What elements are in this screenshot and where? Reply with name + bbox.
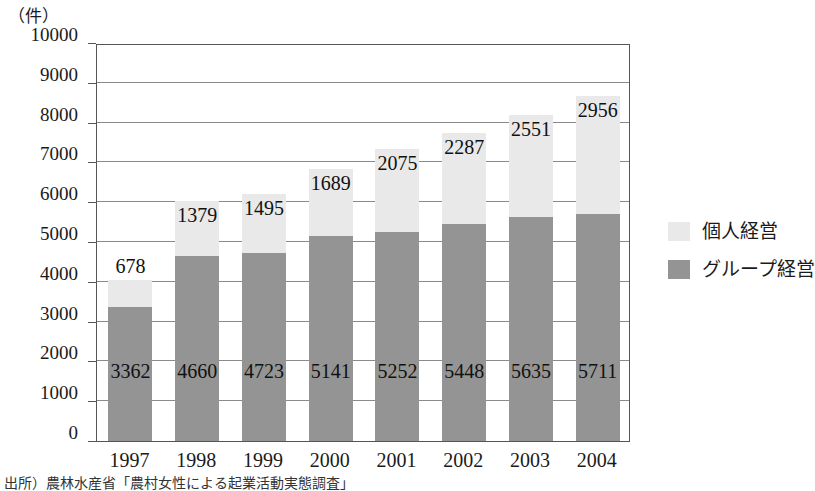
- y-tick-mark: [88, 162, 96, 163]
- x-tick-label: 2000: [296, 450, 363, 470]
- y-tick-mark: [88, 202, 96, 203]
- bar-value-label: 5711: [578, 361, 617, 381]
- y-tick-mark: [88, 242, 96, 243]
- y-tick-mark: [88, 441, 96, 442]
- bar-value-label: 4723: [244, 361, 284, 381]
- bar-value-label: 2287: [444, 137, 484, 157]
- bar-segment-kojin-keiei: 2287: [442, 133, 486, 224]
- bar-segment-group-keiei: 3362: [108, 307, 152, 441]
- legend-label: グループ経営: [702, 260, 815, 279]
- y-tick-mark: [88, 322, 96, 323]
- y-tick-label: 2000: [0, 343, 88, 362]
- dark-gray-swatch: [668, 260, 690, 279]
- bar-group: 3362678: [108, 280, 152, 441]
- y-tick-mark: [88, 282, 96, 283]
- bar-value-label: 2956: [578, 100, 618, 120]
- bar-segment-group-keiei: 5448: [442, 224, 486, 441]
- bar-value-label: 5252: [377, 361, 417, 381]
- bar-segment-kojin-keiei: 2075: [375, 149, 419, 232]
- y-tick-label: 1000: [0, 383, 88, 402]
- y-tick-label: 6000: [0, 184, 88, 203]
- bar-value-label: 1495: [244, 198, 284, 218]
- y-tick-label: 5000: [0, 224, 88, 243]
- y-tick-label: 10000: [0, 25, 88, 44]
- bar-segment-group-keiei: 5711: [576, 214, 620, 441]
- bar-value-label: 1689: [311, 173, 351, 193]
- bar-value-label: 3362: [110, 361, 150, 381]
- y-tick-label: 7000: [0, 144, 88, 163]
- bar-group: 51411689: [309, 169, 353, 441]
- y-tick-label: 0: [0, 423, 88, 442]
- chart-plot-area: 3362678466013794723149551411689525220755…: [96, 44, 630, 442]
- bars-layer: 3362678466013794723149551411689525220755…: [97, 45, 629, 441]
- bar-segment-group-keiei: 5141: [309, 236, 353, 441]
- x-tick-label: 2002: [430, 450, 497, 470]
- x-tick-label: 1999: [230, 450, 297, 470]
- y-tick-label: 3000: [0, 304, 88, 323]
- bar-segment-kojin-keiei: 1495: [242, 194, 286, 254]
- bar-segment-kojin-keiei: 2551: [509, 115, 553, 217]
- y-tick-mark: [88, 83, 96, 84]
- legend-item: 個人経営: [668, 216, 814, 246]
- y-tick-mark: [88, 401, 96, 402]
- bar-value-label: 4660: [177, 361, 217, 381]
- source-note: 出所）農林水産省「農村女性による起業活動実態調査」: [4, 477, 354, 491]
- bar-segment-kojin-keiei: 1379: [175, 201, 219, 256]
- bar-value-label: 678: [115, 256, 145, 276]
- y-tick-mark: [88, 43, 96, 44]
- bar-segment-kojin-keiei: 1689: [309, 169, 353, 236]
- x-tick-label: 1997: [96, 450, 163, 470]
- bar-segment-group-keiei: 5635: [509, 217, 553, 441]
- legend-label: 個人経営: [702, 222, 778, 241]
- y-tick-mark: [88, 361, 96, 362]
- x-tick-label: 2003: [497, 450, 564, 470]
- x-axis: 19971998199920002001200220032004: [96, 446, 630, 474]
- bar-group: 47231495: [242, 194, 286, 441]
- bar-value-label: 1379: [177, 205, 217, 225]
- bar-value-label: 2075: [377, 153, 417, 173]
- bar-segment-kojin-keiei: 2956: [576, 96, 620, 214]
- y-axis: 1000090008000700060005000400030002000100…: [0, 44, 88, 442]
- bar-segment-group-keiei: 5252: [375, 232, 419, 441]
- light-gray-swatch: [668, 222, 690, 241]
- bar-segment-group-keiei: 4660: [175, 256, 219, 441]
- legend-item: グループ経営: [668, 254, 814, 284]
- x-tick-label: 1998: [163, 450, 230, 470]
- chart-legend: 個人経営グループ経営: [668, 216, 814, 292]
- bar-value-label: 5635: [511, 361, 551, 381]
- x-tick-label: 2004: [563, 450, 630, 470]
- bar-value-label: 5448: [444, 361, 484, 381]
- bar-value-label: 5141: [311, 361, 351, 381]
- y-tick-label: 8000: [0, 105, 88, 124]
- y-tick-mark: [88, 123, 96, 124]
- bar-group: 52522075: [375, 149, 419, 441]
- bar-group: 54482287: [442, 133, 486, 441]
- y-tick-label: 9000: [0, 65, 88, 84]
- x-tick-label: 2001: [363, 450, 430, 470]
- bar-value-label: 2551: [511, 119, 551, 139]
- bar-segment-kojin-keiei: 678: [108, 280, 152, 307]
- y-tick-label: 4000: [0, 264, 88, 283]
- bar-group: 56352551: [509, 115, 553, 441]
- bar-segment-group-keiei: 4723: [242, 253, 286, 441]
- bar-group: 46601379: [175, 201, 219, 441]
- bar-group: 57112956: [576, 96, 620, 441]
